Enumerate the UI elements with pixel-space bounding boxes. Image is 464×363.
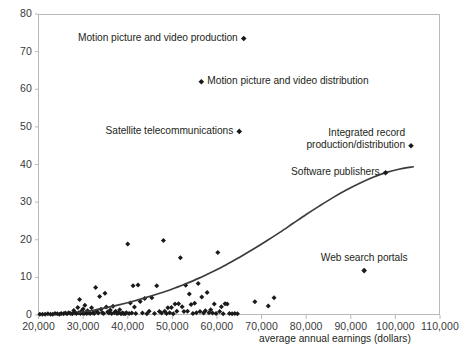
scatter-point: [154, 283, 159, 288]
chart-plot-area: [0, 0, 464, 363]
x-axis-title: average annual earnings (dollars): [259, 333, 411, 344]
point-label: Motion picture and video distribution: [207, 75, 368, 88]
point-label: Integrated recordproduction/distribution: [306, 127, 405, 152]
scatter-point: [131, 283, 136, 288]
scatter-point: [161, 238, 166, 243]
scatter-point: [199, 294, 204, 299]
point-label-line: Integrated record: [306, 127, 405, 140]
scatter-point: [176, 301, 181, 306]
scatter-point: [196, 281, 201, 286]
scatter-point: [152, 311, 157, 316]
y-tick-label: 70: [0, 45, 32, 57]
scatter-point: [102, 291, 107, 296]
scatter-point: [187, 291, 192, 296]
point-label-line: production/distribution: [306, 139, 405, 152]
scatter-point: [219, 304, 224, 309]
y-tick-label: 30: [0, 195, 32, 207]
y-tick-label: 10: [0, 270, 32, 282]
y-tick-label: 50: [0, 120, 32, 132]
x-tick-label: 110,000: [410, 320, 464, 332]
labeled-scatter-point: [199, 79, 205, 85]
scatter-point: [190, 311, 195, 316]
scatter-point: [185, 309, 190, 314]
point-label: Motion picture and video production: [78, 32, 238, 45]
scatter-point: [180, 304, 185, 309]
scatter-point: [178, 255, 183, 260]
scatter-point: [266, 303, 271, 308]
scatter-point: [135, 282, 140, 287]
scatter-point: [169, 305, 174, 310]
scatter-point: [212, 302, 217, 307]
scatter-point: [75, 305, 80, 310]
scatter-point: [125, 241, 130, 246]
scatter-point: [133, 311, 138, 316]
scatter-point: [215, 250, 220, 255]
labeled-point-markers: [199, 36, 414, 274]
y-tick-marks: [35, 14, 39, 315]
y-tick-label: 40: [0, 158, 32, 170]
scatter-chart: 01020304050607080 20,00030,00040,00050,0…: [0, 0, 464, 363]
scatter-point: [97, 294, 102, 299]
scatter-point: [272, 295, 277, 300]
labeled-scatter-point: [383, 170, 389, 176]
y-tick-label: 20: [0, 233, 32, 245]
point-label: Satellite telecommunications: [106, 125, 234, 138]
y-tick-label: 0: [0, 308, 32, 320]
labeled-scatter-point: [236, 129, 242, 135]
scatter-point: [77, 297, 82, 302]
x-tick-marks: [39, 315, 441, 319]
scatter-point: [252, 299, 257, 304]
point-label: Web search portals: [304, 252, 424, 265]
labeled-scatter-point: [408, 143, 414, 149]
scatter-point: [132, 305, 137, 310]
y-tick-label: 60: [0, 82, 32, 94]
scatter-point: [93, 285, 98, 290]
scatter-point-group: [37, 238, 276, 317]
scatter-point: [174, 309, 179, 314]
point-label: Software publishers: [291, 166, 380, 179]
labeled-scatter-point: [361, 268, 367, 274]
trend-line: [79, 167, 414, 313]
y-tick-label: 80: [0, 7, 32, 19]
labeled-scatter-point: [241, 36, 247, 42]
scatter-point: [205, 290, 210, 295]
